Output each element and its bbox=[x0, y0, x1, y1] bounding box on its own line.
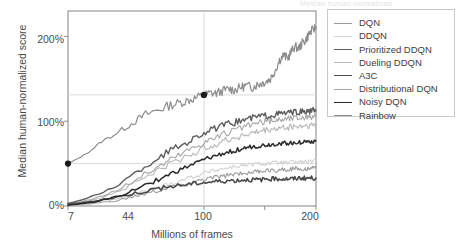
legend-item-dueling-ddqn[interactable]: Dueling DDQN bbox=[334, 56, 422, 70]
legend-swatch-line-icon bbox=[334, 62, 352, 63]
legend-item-a3c[interactable]: A3C bbox=[334, 69, 377, 83]
x-tick-7: 7 bbox=[51, 210, 91, 222]
legend-item-label: A3C bbox=[359, 71, 377, 81]
legend-item-label: DDQN bbox=[359, 31, 387, 41]
legend-item-prioritized-ddqn[interactable]: Prioritized DDQN bbox=[334, 42, 432, 56]
x-tick-100: 100 bbox=[183, 210, 223, 222]
x-tick-44: 44 bbox=[108, 210, 148, 222]
legend-swatch-line-icon bbox=[334, 115, 352, 116]
legend-item-label: Dueling DDQN bbox=[359, 58, 422, 68]
legend-item-rainbow[interactable]: Rainbow bbox=[334, 108, 396, 122]
legend-item-label: Prioritized DDQN bbox=[359, 45, 432, 55]
legend-item-label: DQN bbox=[359, 18, 380, 28]
legend-item-ddqn[interactable]: DDQN bbox=[334, 29, 387, 43]
legend-swatch-line-icon bbox=[334, 102, 352, 103]
legend-item-distributional-dqn[interactable]: Distributional DQN bbox=[334, 82, 438, 96]
legend-item-label: Noisy DQN bbox=[359, 97, 407, 107]
legend-swatch-line-icon bbox=[334, 89, 352, 90]
x-axis-label: Millions of frames bbox=[68, 228, 316, 240]
x-tick-200: 200 bbox=[290, 210, 330, 222]
marker-dot bbox=[201, 92, 207, 98]
legend-swatch-line-icon bbox=[334, 75, 352, 76]
legend: DQNDDQNPrioritized DDQNDueling DDQNA3CDi… bbox=[327, 9, 455, 117]
legend-item-noisy-dqn[interactable]: Noisy DQN bbox=[334, 95, 407, 109]
legend-swatch-line-icon bbox=[334, 49, 352, 50]
legend-swatch-line-icon bbox=[334, 23, 352, 24]
y-axis-label: Median human-normalized score bbox=[16, 6, 28, 196]
legend-swatch-line-icon bbox=[334, 36, 352, 37]
legend-item-label: Rainbow bbox=[359, 111, 396, 121]
marker-dot bbox=[65, 161, 71, 167]
legend-item-label: Distributional DQN bbox=[359, 84, 438, 94]
legend-item-dqn[interactable]: DQN bbox=[334, 16, 380, 30]
